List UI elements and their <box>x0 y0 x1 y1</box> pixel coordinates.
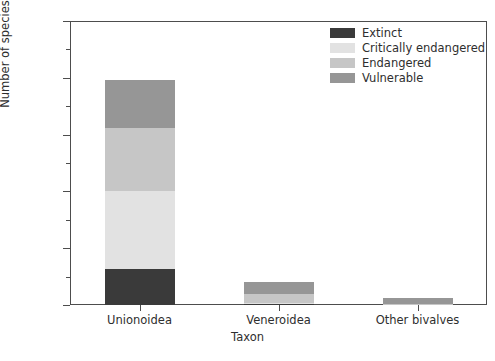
y-tick-mark <box>63 305 70 306</box>
bar-segment-endangered <box>105 128 175 192</box>
y-tick-mark-minor <box>66 220 70 221</box>
x-tick-mark <box>140 305 141 311</box>
x-tick-label: Unionoidea <box>60 313 220 327</box>
y-tick-mark <box>63 191 70 192</box>
x-axis-label: Taxon <box>0 330 495 344</box>
chart-legend: ExtinctCritically endangeredEndangeredVu… <box>330 26 485 84</box>
y-tick-mark <box>63 21 70 22</box>
bar-segment-extinct <box>105 269 175 305</box>
y-tick-mark <box>63 248 70 249</box>
y-tick-mark-minor <box>66 277 70 278</box>
bar-other-bivalves <box>383 298 453 305</box>
x-tick-mark <box>279 305 280 311</box>
bar-segment-vulnerable <box>244 282 314 293</box>
legend-swatch-extinct <box>330 28 355 38</box>
legend-swatch-vulnerable <box>330 73 355 83</box>
legend-label: Vulnerable <box>362 72 423 84</box>
y-axis-label: Number of species <box>0 0 12 124</box>
bar-unionoidea <box>105 80 175 305</box>
legend-label: Critically endangered <box>362 42 485 54</box>
bar-segment-endangered <box>244 294 314 303</box>
y-tick-mark-minor <box>66 163 70 164</box>
bar-segment-extinct <box>244 304 314 305</box>
y-tick-mark <box>63 78 70 79</box>
bar-segment-vulnerable <box>105 80 175 128</box>
legend-item: Extinct <box>330 26 485 39</box>
x-tick-label: Veneroidea <box>199 313 359 327</box>
bar-segment-critically-endangered <box>244 303 314 304</box>
y-tick-mark-minor <box>66 49 70 50</box>
legend-item: Critically endangered <box>330 41 485 54</box>
bar-segment-endangered <box>383 304 453 305</box>
x-tick-mark <box>418 305 419 311</box>
legend-label: Endangered <box>362 57 431 69</box>
y-tick-mark-minor <box>66 106 70 107</box>
bar-segment-vulnerable <box>383 298 453 304</box>
chart-figure: Number of species Taxon 050100150200250 … <box>0 0 495 361</box>
legend-swatch-endangered <box>330 58 355 68</box>
legend-item: Endangered <box>330 56 485 69</box>
y-tick-mark <box>63 135 70 136</box>
legend-item: Vulnerable <box>330 71 485 84</box>
x-tick-label: Other bivalves <box>338 313 495 327</box>
bar-veneroidea <box>244 282 314 305</box>
bar-segment-critically-endangered <box>105 191 175 268</box>
legend-swatch-critically-endangered <box>330 43 355 53</box>
legend-label: Extinct <box>362 27 402 39</box>
